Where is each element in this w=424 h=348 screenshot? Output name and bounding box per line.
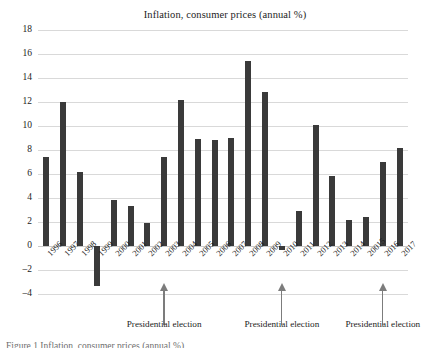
inflation-bar-chart-figure: Inflation, consumer prices (annual %) Fi… (0, 0, 424, 348)
gridline (38, 198, 408, 199)
bar (43, 157, 49, 246)
bar (262, 92, 268, 246)
y-axis-tick-label: –4 (6, 288, 32, 298)
bar (212, 140, 218, 246)
gridline (38, 174, 408, 175)
gridline (38, 150, 408, 151)
bar (313, 125, 319, 246)
bar (111, 200, 117, 246)
y-axis-tick-label: 16 (6, 48, 32, 58)
y-axis-tick-label: 0 (6, 240, 32, 250)
bar (296, 211, 302, 246)
bar (77, 172, 83, 246)
bar (245, 61, 251, 246)
bar (397, 148, 403, 246)
y-axis-tick-label: 8 (6, 144, 32, 154)
y-axis-tick-label: 12 (6, 96, 32, 106)
y-axis-tick-label: 14 (6, 72, 32, 82)
bar (329, 176, 335, 246)
bar (228, 138, 234, 246)
y-axis-tick-label: –2 (6, 264, 32, 274)
gridline (38, 78, 408, 79)
figure-caption: Figure 1 Inflation, consumer prices (ann… (6, 341, 306, 348)
election-annotation-label: Presidential election (104, 319, 224, 329)
y-axis-tick-label: 4 (6, 192, 32, 202)
y-axis-tick-label: 18 (6, 24, 32, 34)
gridline (38, 54, 408, 55)
chart-title: Inflation, consumer prices (annual %) (60, 9, 390, 20)
y-axis-tick-label: 2 (6, 216, 32, 226)
gridline (38, 126, 408, 127)
bar (161, 157, 167, 246)
y-axis-tick-label: 6 (6, 168, 32, 178)
gridline (38, 294, 408, 295)
bar (60, 102, 66, 246)
y-axis-tick-label: 10 (6, 120, 32, 130)
election-annotation-label: Presidential election (323, 319, 424, 329)
gridline (38, 30, 408, 31)
bar (178, 100, 184, 246)
gridline (38, 222, 408, 223)
bar (128, 206, 134, 246)
bar (380, 162, 386, 246)
bar (195, 139, 201, 246)
gridline (38, 102, 408, 103)
